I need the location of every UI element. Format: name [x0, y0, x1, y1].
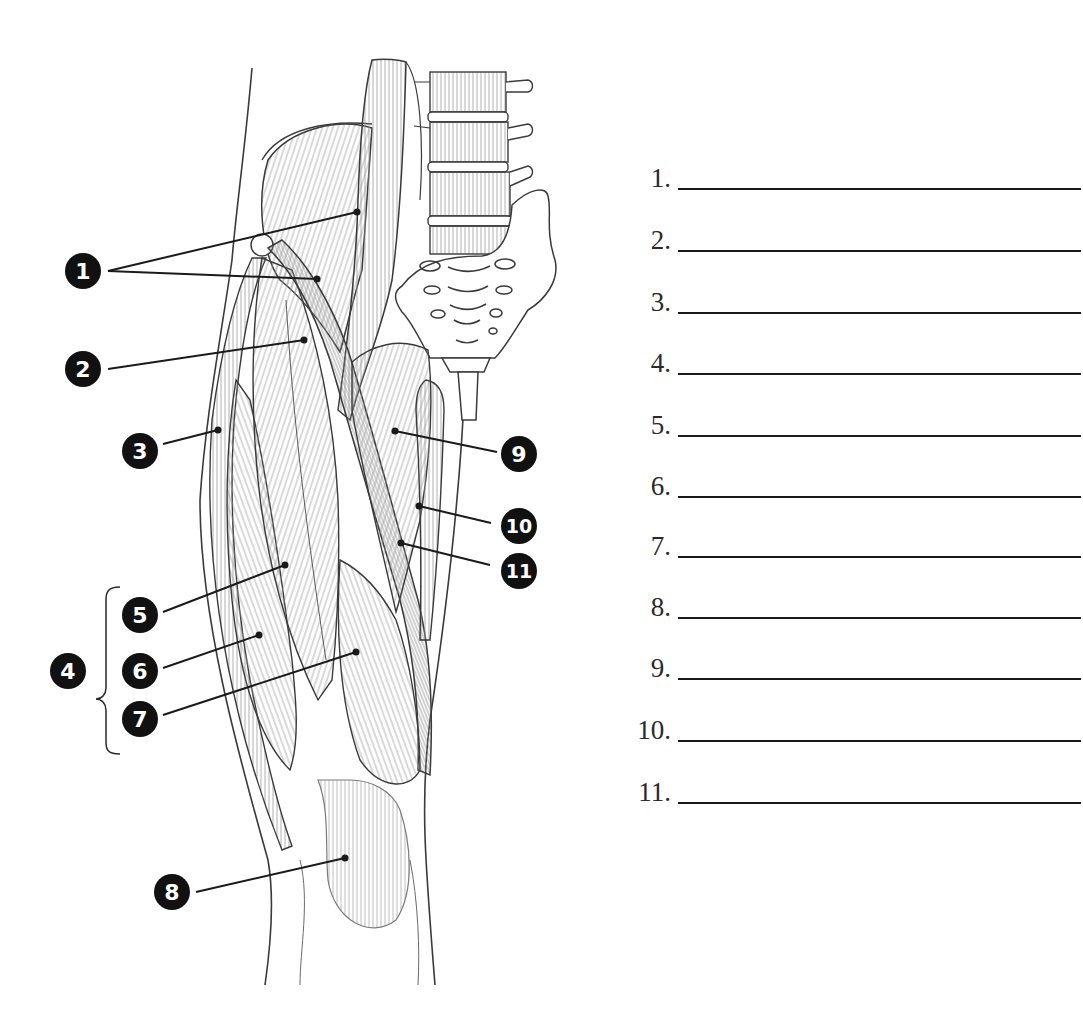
answer-blank-8[interactable] [678, 617, 1081, 619]
callout-11: 11 [501, 553, 537, 589]
answer-blank-10[interactable] [678, 740, 1081, 742]
answer-row-10: 10. [620, 708, 1083, 748]
answer-blank-3[interactable] [678, 312, 1081, 314]
svg-text:8: 8 [164, 880, 179, 905]
answer-number: 11. [638, 779, 671, 806]
answer-number: 6. [651, 473, 671, 500]
group-4-bracket [96, 587, 120, 754]
answer-row-11: 11. [620, 770, 1083, 810]
answer-number: 1. [651, 165, 671, 192]
svg-text:11: 11 [506, 560, 532, 582]
answer-row-9: 9. [620, 646, 1083, 686]
answer-number: 3. [651, 289, 671, 316]
answer-number: 8. [651, 594, 671, 621]
answer-blank-7[interactable] [678, 556, 1081, 558]
answer-row-8: 8. [620, 585, 1083, 625]
callout-8: 8 [154, 874, 190, 910]
svg-text:1: 1 [75, 259, 90, 284]
svg-text:6: 6 [132, 659, 147, 684]
answer-number: 4. [651, 350, 671, 377]
answer-blank-4[interactable] [678, 373, 1081, 375]
svg-text:3: 3 [132, 439, 147, 464]
thigh-muscle-diagram: 1 2 3 4 5 6 7 8 9 10 11 [0, 0, 1083, 1024]
answer-row-2: 2. [620, 218, 1083, 258]
svg-text:4: 4 [60, 659, 75, 684]
callout-6: 6 [122, 653, 158, 689]
answer-blank-11[interactable] [678, 802, 1081, 804]
answer-number: 10. [637, 717, 671, 744]
answer-blank-1[interactable] [678, 188, 1081, 190]
answer-row-3: 3. [620, 280, 1083, 320]
callout-7: 7 [122, 701, 158, 737]
svg-text:5: 5 [132, 603, 147, 628]
answer-number: 2. [651, 227, 671, 254]
svg-text:10: 10 [506, 515, 532, 537]
knee-region [300, 780, 419, 985]
answer-number: 9. [651, 655, 671, 682]
answer-blank-2[interactable] [678, 250, 1081, 252]
svg-text:9: 9 [511, 442, 526, 467]
callout-5: 5 [122, 597, 158, 633]
answer-blank-9[interactable] [678, 678, 1081, 680]
callout-1: 1 [65, 253, 101, 289]
callout-9: 9 [501, 436, 537, 472]
answer-blank-5[interactable] [678, 435, 1081, 437]
answer-number: 5. [651, 412, 671, 439]
callout-2: 2 [65, 351, 101, 387]
callout-4: 4 [50, 653, 86, 689]
answer-row-4: 4. [620, 341, 1083, 381]
svg-text:7: 7 [132, 707, 147, 732]
answer-row-5: 5. [620, 403, 1083, 443]
answer-row-1: 1. [620, 156, 1083, 196]
answer-row-7: 7. [620, 524, 1083, 564]
answer-row-6: 6. [620, 464, 1083, 504]
callout-3: 3 [122, 433, 158, 469]
answer-number: 7. [651, 533, 671, 560]
answer-blank-6[interactable] [678, 496, 1081, 498]
svg-text:2: 2 [75, 357, 90, 382]
callout-10: 10 [501, 508, 537, 544]
